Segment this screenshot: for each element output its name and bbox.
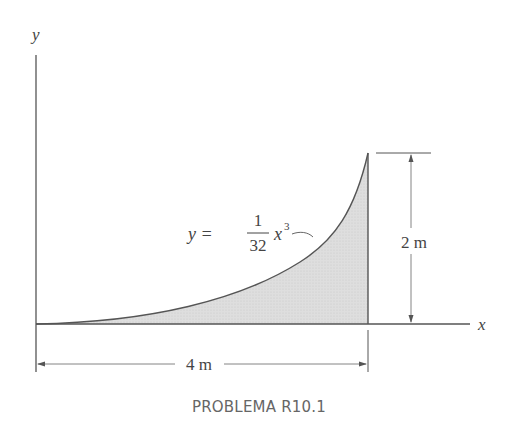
y-axis-label: y: [30, 25, 40, 44]
svg-text:32: 32: [250, 236, 267, 255]
curve-equation: y = 1 32 x 3: [186, 211, 290, 255]
width-arrow-left: [37, 362, 45, 367]
x-axis-label: x: [477, 315, 486, 334]
figure-caption: PROBLEMA R10.1: [0, 398, 518, 416]
height-arrow-bottom: [409, 315, 414, 323]
width-dimension-label: 4 m: [186, 355, 212, 374]
width-arrow-right: [359, 362, 367, 367]
svg-text:1: 1: [254, 211, 263, 230]
svg-text:x: x: [273, 224, 282, 244]
svg-text:3: 3: [284, 220, 290, 232]
svg-text:y =: y =: [186, 224, 213, 244]
height-dimension-label: 2 m: [401, 233, 427, 252]
height-arrow-top: [409, 154, 414, 162]
equation-leader-line: [292, 232, 313, 237]
diagram-canvas: y x 4 m 2 m y = 1 32 x 3: [0, 0, 518, 445]
